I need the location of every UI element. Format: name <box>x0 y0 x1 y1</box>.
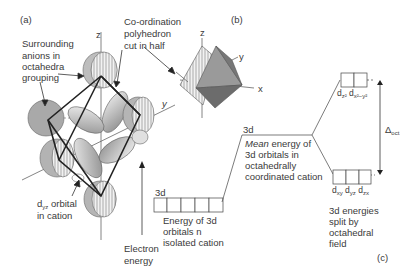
axis-z-label-b: z <box>200 27 205 38</box>
axis-x-label-b: x <box>258 83 263 94</box>
anion-lower-left <box>40 139 74 177</box>
panel-label-c: (c) <box>377 252 388 263</box>
t2g-orbital-labels: dxy dyz dzx <box>332 185 369 196</box>
eg-boxes <box>341 73 367 87</box>
axis-z-label-a: z <box>96 29 101 40</box>
t2g-boxes <box>333 170 371 184</box>
axis-y-label-a: y <box>162 98 167 109</box>
eg-orbital-labels: dz² dx²−y² <box>337 88 367 99</box>
panel-label-b: (b) <box>231 14 243 25</box>
axis-y-label-b: y <box>239 51 244 62</box>
anion-top <box>83 52 117 88</box>
anion-left <box>28 100 64 136</box>
mean-3d-label: 3d <box>243 124 254 135</box>
isolated-3d-boxes <box>154 198 223 212</box>
panel-label-a: (a) <box>20 14 32 25</box>
isolated-3d-label: 3d <box>155 187 166 198</box>
half-octahedron-figure <box>176 38 254 118</box>
anion-lower-right <box>132 130 148 144</box>
delta-oct-label: Δoct <box>385 124 399 139</box>
